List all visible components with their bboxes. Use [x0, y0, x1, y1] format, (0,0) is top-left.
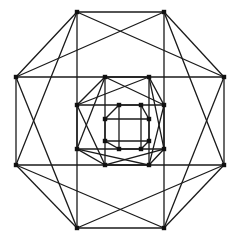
graph-vertex — [14, 75, 18, 79]
graph-vertex — [147, 163, 151, 167]
graph-vertex — [14, 163, 18, 167]
graph-vertex — [147, 139, 151, 143]
graph-vertex — [75, 147, 79, 151]
graph-vertex — [117, 103, 121, 107]
graph-vertex — [103, 117, 107, 121]
edge-layer — [16, 12, 224, 228]
graph-vertex — [75, 103, 79, 107]
graph-vertex — [139, 103, 143, 107]
graph-vertex — [75, 226, 79, 230]
graph-edge — [16, 77, 77, 228]
graph-vertex — [147, 75, 151, 79]
graph-vertex — [103, 139, 107, 143]
graph-edge — [164, 12, 224, 165]
graph-diagram — [0, 0, 233, 241]
graph-vertex — [103, 75, 107, 79]
graph-vertex — [139, 147, 143, 151]
graph-vertex — [103, 163, 107, 167]
graph-vertex — [117, 147, 121, 151]
graph-vertex — [162, 103, 166, 107]
graph-vertex — [147, 117, 151, 121]
graph-edge — [164, 165, 224, 228]
graph-edge — [77, 165, 224, 228]
graph-edge — [16, 12, 77, 77]
graph-vertex — [222, 75, 226, 79]
graph-edge — [77, 77, 105, 105]
graph-edge — [16, 165, 164, 228]
graph-edge — [164, 12, 224, 77]
graph-edge — [16, 165, 77, 228]
graph-vertex — [162, 147, 166, 151]
graph-vertex — [162, 226, 166, 230]
graph-edge — [164, 77, 224, 228]
graph-vertex — [222, 163, 226, 167]
vertex-layer — [14, 10, 226, 230]
graph-edge — [77, 12, 224, 77]
graph-vertex — [162, 10, 166, 14]
figure-canvas — [0, 0, 233, 241]
graph-edge — [16, 12, 164, 77]
graph-vertex — [75, 10, 79, 14]
graph-edge — [16, 12, 77, 165]
